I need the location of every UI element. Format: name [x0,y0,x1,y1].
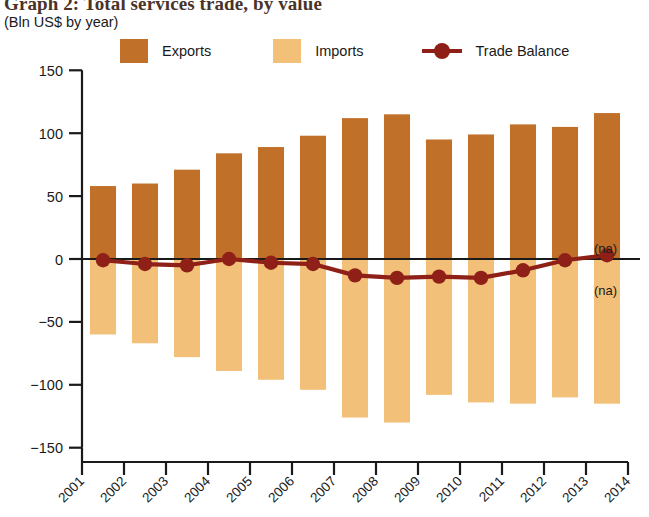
annotation-na-upper: (na) [594,241,617,256]
x-axis-label-2008: 2008 [349,474,381,506]
x-axis-label-2007: 2007 [307,474,339,506]
x-axis-label-2011: 2011 [476,474,507,505]
trade-balance-point-2005[interactable] [264,256,278,270]
export-bar-2001[interactable] [90,186,116,259]
y-axis-label--150: −150 [30,440,63,456]
export-bar-2007[interactable] [342,118,368,259]
annotation-na-lower: (na) [594,283,617,298]
x-axis-label-2005: 2005 [223,474,255,506]
x-axis-label-2003: 2003 [139,474,171,506]
export-bar-2004[interactable] [216,153,242,259]
x-axis-label-2013: 2013 [559,474,591,506]
import-bar-2013[interactable] [594,259,620,404]
x-axis-label-2012: 2012 [517,474,549,506]
trade-balance-point-2004[interactable] [222,252,236,266]
import-bar-2012[interactable] [552,259,578,397]
import-bar-2007[interactable] [342,259,368,418]
export-bar-2012[interactable] [552,127,578,259]
chart-plot-area: 150100500−50−100−15020012002200320042005… [0,0,649,517]
import-bar-2004[interactable] [216,259,242,371]
x-axis-label-2009: 2009 [391,474,423,506]
trade-balance-point-2008[interactable] [390,271,404,285]
trade-balance-point-2012[interactable] [558,253,572,267]
trade-balance-point-2003[interactable] [180,258,194,272]
export-bar-2009[interactable] [426,139,452,259]
import-bar-2001[interactable] [90,259,116,334]
trade-balance-point-2002[interactable] [138,257,152,271]
trade-balance-point-2006[interactable] [306,257,320,271]
import-bar-2005[interactable] [258,259,284,380]
y-axis-label--50: −50 [38,314,63,330]
trade-balance-point-2001[interactable] [96,253,110,267]
import-bar-2003[interactable] [174,259,200,357]
services-trade-chart: 150100500−50−100−15020012002200320042005… [0,0,649,517]
x-axis-label-2010: 2010 [433,474,465,506]
x-axis-label-2014: 2014 [601,473,633,505]
export-bar-2003[interactable] [174,170,200,259]
export-bar-2005[interactable] [258,147,284,259]
import-bar-2006[interactable] [300,259,326,390]
y-axis-label-50: 50 [47,189,63,205]
x-axis-label-2002: 2002 [97,474,129,506]
trade-balance-point-2009[interactable] [432,269,446,283]
export-bar-2011[interactable] [510,124,536,259]
export-bar-2013[interactable] [594,113,620,259]
x-axis-label-2004: 2004 [181,473,213,505]
trade-balance-point-2010[interactable] [474,271,488,285]
trade-balance-point-2011[interactable] [516,263,530,277]
export-bar-2010[interactable] [468,134,494,259]
y-axis-label-150: 150 [39,63,63,79]
x-axis-label-2006: 2006 [265,474,297,506]
x-axis-label-2001: 2001 [55,474,87,506]
y-axis-label-100: 100 [39,126,63,142]
export-bar-2002[interactable] [132,184,158,259]
export-bar-2006[interactable] [300,136,326,259]
trade-balance-point-2007[interactable] [348,268,362,282]
import-bar-2011[interactable] [510,259,536,404]
y-axis-label--100: −100 [30,377,63,393]
labels-group: 150100500−50−100−15020012002200320042005… [30,63,633,506]
export-bar-2008[interactable] [384,114,410,259]
import-bar-2002[interactable] [132,259,158,343]
y-axis-label-0: 0 [55,252,63,268]
